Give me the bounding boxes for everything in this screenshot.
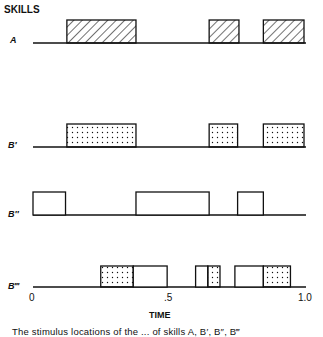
axis-label-time: TIME [149,310,171,320]
figure-caption: The stimulus locations of the ... of ski… [12,326,240,337]
segment-dotted [101,266,134,287]
tick-label-0: 0 [29,292,35,303]
tick-label-05: .5 [164,292,172,303]
segment-dotted [209,124,237,147]
segment-empty [235,266,263,287]
segment-dotted [263,124,304,147]
segment-empty [133,266,167,287]
segment-empty [196,266,208,287]
segment-hatched [263,20,304,43]
segment-dotted [67,124,136,147]
segment-empty [238,192,264,215]
segment-hatched [67,20,136,43]
segment-hatched [209,20,239,43]
segment-empty [136,192,209,215]
tick-label-1: 1.0 [298,292,312,303]
segment-empty [33,192,66,215]
segment-dotted [263,266,290,287]
segment-dotted [208,266,220,287]
